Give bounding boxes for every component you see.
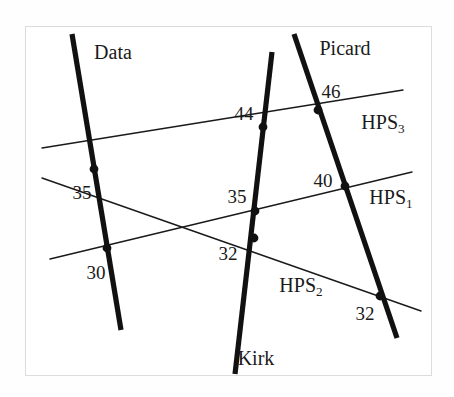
hps3-label-base: HPS (361, 111, 398, 133)
value-picard-hps3: 46 (322, 82, 341, 101)
thin-line-hps3 (42, 90, 403, 148)
intersection-dot-picard-hps2 (376, 292, 385, 301)
hps2-label-base: HPS (279, 274, 316, 296)
intersection-dot-picard-hps1 (341, 182, 350, 191)
value-kirk-hps3: 44 (235, 104, 254, 123)
value-kirk-hps1: 35 (228, 187, 247, 206)
value-data-hps1: 30 (87, 263, 106, 282)
value-picard-hps2: 32 (356, 304, 375, 323)
data-label: Data (94, 42, 132, 62)
intersection-dot-kirk-hps3 (259, 123, 268, 132)
hps3-label-subscript: 3 (398, 121, 405, 136)
hps1-label-base: HPS (369, 186, 406, 208)
hps3-label: HPS3 (361, 112, 404, 132)
hps2-label: HPS2 (279, 275, 322, 295)
kirk-label: Kirk (238, 348, 275, 368)
picard-label: Picard (319, 38, 370, 58)
value-kirk-hps2: 32 (219, 244, 238, 263)
hps1-label-subscript: 1 (406, 196, 413, 211)
intersection-dot-data-hps1 (103, 244, 112, 253)
intersection-dot-data-hps3 (90, 165, 99, 174)
intersection-dot-kirk-hps1 (251, 207, 260, 216)
hps1-label: HPS1 (369, 187, 412, 207)
value-data-hps3: 35 (73, 183, 92, 202)
value-picard-hps1: 40 (314, 171, 333, 190)
intersection-dot-picard-hps3 (314, 106, 323, 115)
hps2-label-subscript: 2 (316, 284, 323, 299)
diagram-canvas: DataPicardKirkHPS3HPS1HPS235304435324640… (0, 0, 454, 397)
intersection-dot-kirk-hps2 (250, 234, 259, 243)
